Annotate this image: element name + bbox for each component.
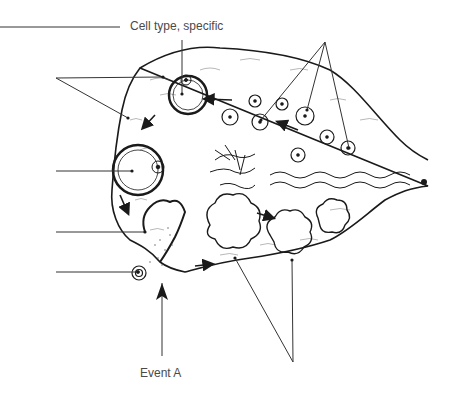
label-event-a: Event A — [140, 366, 181, 380]
ovary-outline — [112, 47, 428, 272]
vessel-end — [421, 179, 427, 185]
label-cell-type: Cell type, specific — [130, 19, 223, 33]
corpora — [207, 194, 350, 254]
ovary-diagram — [0, 0, 452, 394]
follicle-antral — [113, 145, 164, 195]
process-arrows — [120, 99, 298, 266]
leader-lines — [0, 27, 349, 362]
stroma-texture — [130, 59, 378, 256]
